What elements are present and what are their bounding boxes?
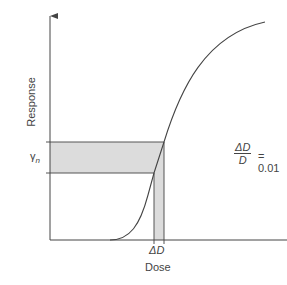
y-axis-label: Response [25,67,37,137]
fraction-denominator: D [234,154,251,166]
fraction-numerator: ΔD [234,141,251,154]
dose-response-figure: Response Dose ΔD γn ΔD D = 0.01 [0,0,287,285]
gamma-label: γn [30,150,40,165]
ratio-value: = 0.01 [258,150,287,174]
gamma-subscript: n [36,156,40,165]
response-band [50,142,164,173]
dose-band [154,173,164,240]
ratio-fraction: ΔD D [234,141,251,166]
delta-d-text: ΔD [149,244,164,256]
sigmoid-curve [110,22,265,240]
x-axis-label: Dose [145,261,171,273]
delta-d-label: ΔD [149,244,164,256]
